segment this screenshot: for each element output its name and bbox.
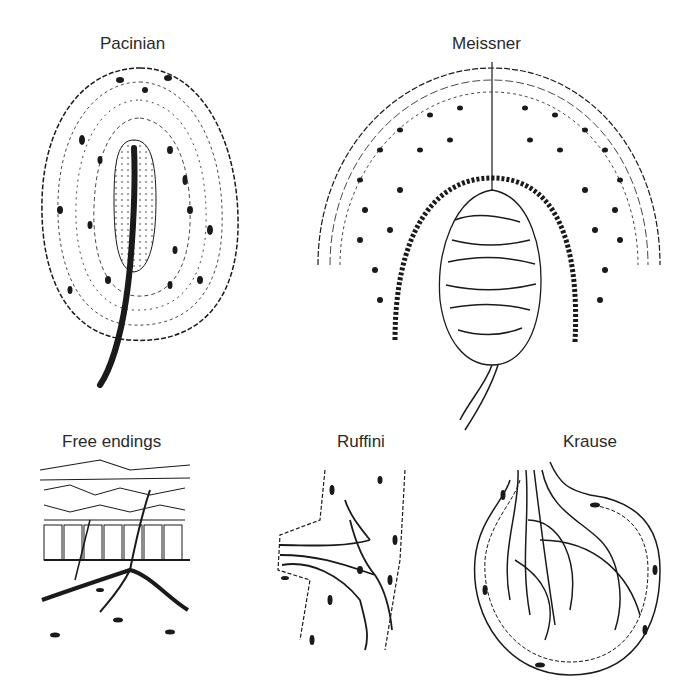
receptor-drawings <box>0 0 689 699</box>
meissner-corpuscle-drawing <box>318 62 660 430</box>
ruffini-ending-drawing <box>278 470 405 650</box>
pacinian-corpuscle-drawing <box>42 68 238 385</box>
free-endings-drawing <box>40 460 190 638</box>
krause-bulb-drawing <box>475 462 660 675</box>
